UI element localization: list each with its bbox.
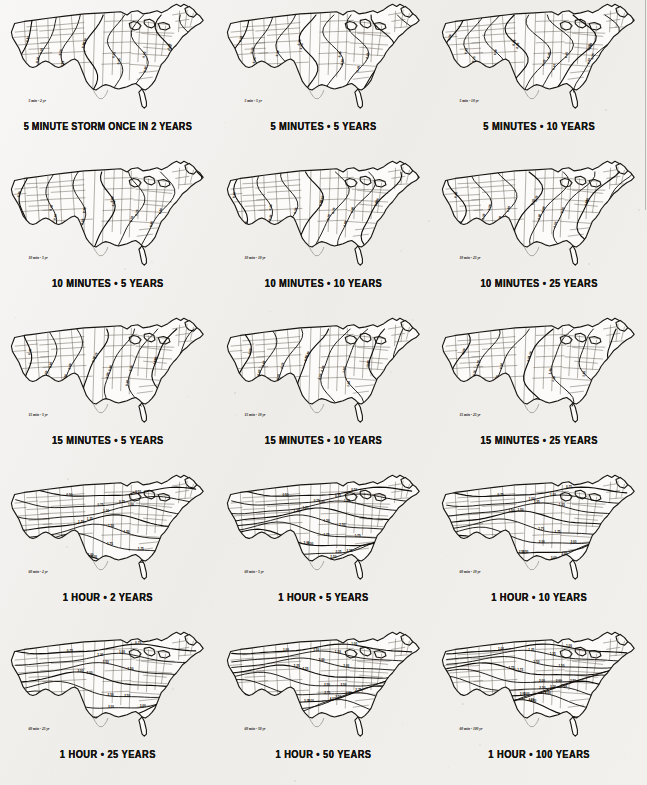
usa-isopluvial-map[interactable]: 0.300.300.400.400.500.500.600.600.700.70… <box>216 157 432 277</box>
usa-isopluvial-map[interactable]: 0.750.751.001.001.501.502.002.002.502.50… <box>0 628 216 748</box>
scan-speck <box>588 263 590 265</box>
scan-speck <box>187 396 189 398</box>
contour-label: 4.00 <box>329 697 335 701</box>
usa-isopluvial-map[interactable]: 0.750.751.001.001.251.251.501.501.751.75… <box>431 471 647 591</box>
usa-isopluvial-map[interactable]: 0.200.200.250.250.300.300.350.350.400.40… <box>216 0 432 120</box>
usa-isopluvial-map[interactable]: 0.500.500.600.600.700.700.800.800.900.90… <box>216 314 432 434</box>
scan-speck <box>234 392 236 394</box>
contour-label: 1.50 <box>594 381 599 388</box>
usa-isopluvial-map[interactable]: 0.500.500.750.751.001.001.251.251.501.50… <box>216 471 432 591</box>
contour-label: 2.75 <box>355 688 361 692</box>
usa-isopluvial-map[interactable]: 0.400.400.500.500.600.600.700.700.800.80… <box>0 314 216 434</box>
map-panel[interactable]: 1.001.001.501.502.002.002.252.252.502.50… <box>216 628 432 785</box>
contour-label: 1.50 <box>124 530 130 534</box>
usa-map-graphic: 1.001.001.251.251.501.501.751.752.002.00… <box>443 632 635 736</box>
panel-caption: 15 MINUTES • 5 YEARS <box>52 435 164 446</box>
contour-label: 0.75 <box>335 494 341 498</box>
map-panel[interactable]: 0.500.500.600.600.700.700.800.800.900.90… <box>216 314 432 471</box>
map-panel[interactable]: 0.500.500.750.751.001.001.251.251.501.50… <box>216 471 432 628</box>
scan-speck <box>264 691 265 692</box>
usa-isopluvial-map[interactable]: 1.001.001.251.251.501.501.751.752.002.00… <box>431 628 647 748</box>
contour-label: 2.50 <box>108 693 114 697</box>
contour-label: 4.50 <box>529 698 535 702</box>
panel-caption: 5 MINUTES • 10 YEARS <box>483 121 595 132</box>
map-panel[interactable]: 0.750.751.001.001.251.251.501.501.751.75… <box>431 471 647 628</box>
contour-label: 0.50 <box>233 376 238 383</box>
contour-label: 0.75 <box>498 493 504 497</box>
map-panel[interactable]: 0.500.500.700.700.900.901.101.101.301.30… <box>431 314 647 471</box>
inset-label: 60 min - 100 yr <box>460 727 483 731</box>
map-panel[interactable]: 0.200.200.250.250.300.300.350.350.400.40… <box>431 0 647 157</box>
map-panel[interactable]: 0.400.400.500.500.600.600.700.700.800.80… <box>431 157 647 314</box>
usa-isopluvial-map[interactable]: 1.001.001.501.502.002.002.252.252.502.50… <box>216 628 432 748</box>
contour-label: 1.25 <box>293 509 299 513</box>
contour-label: 1.00 <box>351 642 357 646</box>
scan-speck <box>236 415 237 416</box>
scan-speck <box>492 70 493 71</box>
contour-label: 1.50 <box>518 508 524 512</box>
contour-label: 3.00 <box>308 699 314 703</box>
scan-speck <box>587 556 588 557</box>
scan-speck <box>605 109 607 111</box>
scan-speck <box>310 328 312 330</box>
scan-speck <box>233 538 234 539</box>
usa-isopluvial-map[interactable]: 0.500.500.750.751.001.001.251.251.501.50… <box>0 471 216 591</box>
scan-speck <box>447 353 449 355</box>
contour-label: 1.70 <box>613 366 618 373</box>
contour-label: 3.50 <box>550 685 556 689</box>
inset-label: 10 min - 5 yr <box>29 256 49 260</box>
contour-label: 1.75 <box>354 534 360 538</box>
scan-speck <box>462 703 464 705</box>
contour-label: 1.00 <box>128 503 134 507</box>
panel-caption: 5 MINUTE STORM ONCE IN 2 YEARS <box>24 121 192 132</box>
contour-label: 2.00 <box>556 679 562 683</box>
contour-label: 0.60 <box>622 36 627 43</box>
scan-speck <box>151 261 153 263</box>
usa-isopluvial-map[interactable]: 0.400.400.500.500.600.600.700.700.800.80… <box>431 157 647 277</box>
scan-speck <box>67 478 69 480</box>
contour-label: 0.75 <box>67 649 73 653</box>
panel-caption: 1 HOUR • 5 YEARS <box>278 592 368 603</box>
map-panel[interactable]: 0.300.300.400.400.500.500.600.600.700.70… <box>216 157 432 314</box>
scan-speck <box>590 433 591 434</box>
map-panel[interactable]: 1.001.001.251.251.501.501.751.752.002.00… <box>431 628 647 785</box>
contour-label: 0.55 <box>396 59 401 66</box>
map-panel[interactable]: 0.150.150.200.200.250.250.300.300.350.35… <box>0 0 216 157</box>
usa-isopluvial-map[interactable]: 0.200.200.250.250.300.300.350.350.400.40… <box>431 0 647 120</box>
usa-map-graphic: 0.150.150.200.200.250.250.300.300.350.35… <box>11 4 203 108</box>
contour-label: 1.75 <box>539 527 545 531</box>
scan-speck <box>429 84 430 85</box>
map-panel[interactable]: 0.300.300.400.400.500.500.600.600.700.70… <box>0 157 216 314</box>
contour-label: 2.00 <box>307 542 313 546</box>
usa-map-graphic: 0.750.751.001.001.251.251.501.501.751.75… <box>443 475 635 579</box>
usa-map-graphic: 0.750.751.001.001.501.502.002.002.502.50… <box>11 632 203 736</box>
contour-label: 1.25 <box>302 506 308 510</box>
map-panel[interactable]: 0.500.500.750.751.001.001.251.251.501.50… <box>0 471 216 628</box>
usa-map-graphic: 0.500.500.700.700.900.901.101.101.301.30… <box>443 318 635 422</box>
usa-isopluvial-map[interactable]: 0.150.150.200.200.250.250.300.300.350.35… <box>0 0 216 120</box>
contour-label: 3.50 <box>335 695 341 699</box>
contour-label: 1.50 <box>108 524 114 528</box>
inset-label: 15 min - 5 yr <box>29 413 49 417</box>
usa-isopluvial-map[interactable]: 0.300.300.400.400.500.500.600.600.700.70… <box>0 157 216 277</box>
contour-label: 3.00 <box>140 704 146 708</box>
scan-speck <box>273 281 274 282</box>
contour-label: 1.00 <box>550 493 556 497</box>
usa-map-graphic: 0.300.300.400.400.500.500.600.600.700.70… <box>227 161 419 265</box>
contour-label: 1.75 <box>107 542 113 546</box>
usa-map-graphic: 0.400.400.500.500.600.600.700.700.800.80… <box>11 318 203 422</box>
scan-speck <box>390 371 392 373</box>
usa-isopluvial-map[interactable]: 0.500.500.700.700.900.901.101.101.301.30… <box>431 314 647 434</box>
contour-label: 2.00 <box>343 664 349 668</box>
contour-label: 1.40 <box>404 375 409 382</box>
map-panel[interactable]: 0.400.400.500.500.600.600.700.700.800.80… <box>0 314 216 471</box>
scan-speck <box>428 220 430 222</box>
contour-label: 1.00 <box>566 644 572 648</box>
contour-label: 2.50 <box>330 555 336 559</box>
contour-label: 1.50 <box>313 648 319 652</box>
map-panel[interactable]: 0.200.200.250.250.300.300.350.350.400.40… <box>216 0 432 157</box>
scan-speck <box>242 678 244 680</box>
map-panel[interactable]: 0.750.751.001.001.501.502.002.002.502.50… <box>0 628 216 785</box>
contour-label: 2.50 <box>124 694 130 698</box>
usa-map-graphic: 0.500.500.750.751.001.001.251.251.501.50… <box>11 475 203 579</box>
